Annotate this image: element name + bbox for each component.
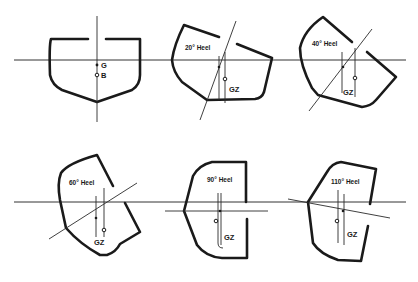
gz-label: GZ bbox=[347, 230, 358, 239]
panel-heel-60: 60° Heel GZ bbox=[49, 155, 140, 255]
gz-label: GZ bbox=[229, 85, 240, 94]
label-b: B bbox=[101, 71, 107, 80]
b-point-icon bbox=[102, 228, 106, 232]
gz-label: GZ bbox=[343, 88, 354, 97]
b-point-icon bbox=[335, 219, 339, 223]
gz-label: GZ bbox=[94, 238, 105, 247]
g-point-icon bbox=[96, 64, 99, 67]
g-point-icon bbox=[218, 66, 221, 69]
g-point-icon bbox=[219, 210, 222, 213]
stability-diagram: G B 20° Heel GZ 40° Heel GZ 60° Heel GZ bbox=[0, 0, 418, 282]
vertical-through-g bbox=[218, 193, 223, 248]
hull-outline bbox=[172, 25, 272, 100]
heel-label: 20° Heel bbox=[185, 44, 211, 51]
g-point-icon bbox=[95, 217, 98, 220]
panel-heel-110: 110° Heel GZ bbox=[288, 162, 390, 261]
panel-heel-20: 20° Heel GZ bbox=[172, 21, 272, 120]
panel-heel-40: 40° Heel GZ bbox=[300, 17, 396, 111]
b-point-icon bbox=[214, 219, 218, 223]
label-g: G bbox=[101, 61, 107, 70]
b-point-icon bbox=[95, 73, 99, 77]
heel-label: 60° Heel bbox=[69, 179, 95, 186]
heel-label: 110° Heel bbox=[331, 178, 360, 185]
g-point-icon bbox=[342, 210, 345, 213]
panel-upright: G B bbox=[50, 16, 140, 122]
b-point-icon bbox=[223, 77, 227, 81]
b-point-icon bbox=[353, 76, 357, 80]
gz-label: GZ bbox=[224, 233, 235, 242]
g-point-icon bbox=[342, 66, 345, 69]
hull-outline bbox=[50, 39, 140, 102]
heel-label: 90° Heel bbox=[207, 176, 233, 183]
panel-heel-90: 90° Heel GZ bbox=[165, 162, 268, 258]
heel-label: 40° Heel bbox=[312, 40, 338, 47]
